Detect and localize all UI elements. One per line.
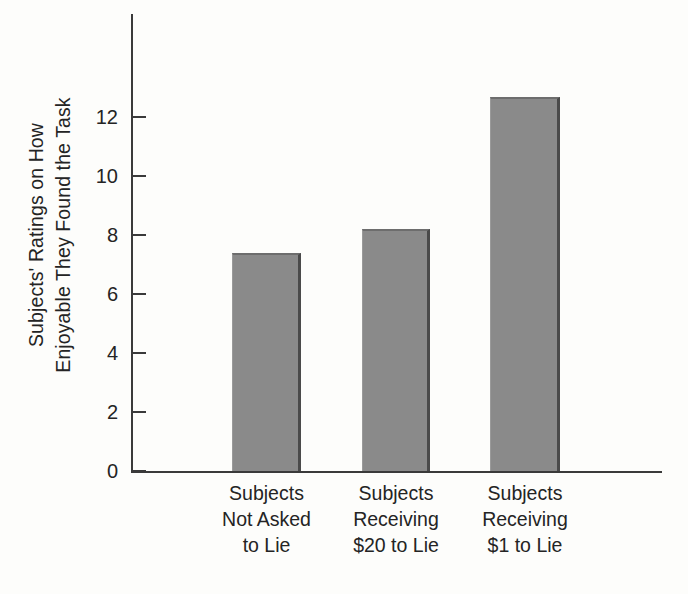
bar-subjects-receiving-20-to-lie[interactable]	[362, 229, 430, 471]
y-tick-label: 2	[107, 402, 118, 422]
y-tick-mark	[133, 234, 146, 236]
y-tick-label: 6	[107, 284, 118, 304]
y-tick-label: 8	[107, 225, 118, 245]
x-axis-label-line: $1 to Lie	[435, 532, 615, 558]
y-tick-mark	[133, 175, 146, 177]
y-axis-title-line-1: Subjects' Ratings on How	[23, 97, 50, 372]
y-tick-label: 10	[96, 166, 118, 186]
y-axis-title-line-2: Enjoyable They Found the Task	[50, 97, 77, 372]
y-tick-label: 4	[107, 343, 118, 363]
y-tick-mark	[133, 293, 146, 295]
y-axis-title-text: Subjects' Ratings on How Enjoyable They …	[23, 97, 77, 372]
y-tick-mark	[133, 352, 146, 354]
plot-area: 0 2 4 6 8 10 12	[131, 14, 662, 473]
bar-subjects-receiving-1-to-lie[interactable]	[490, 97, 560, 471]
y-tick-mark	[133, 116, 146, 118]
bar-subjects-not-asked-to-lie[interactable]	[232, 253, 301, 471]
x-axis-label-line: Subjects	[435, 480, 615, 506]
y-axis-line	[131, 14, 133, 473]
y-tick-label: 12	[96, 107, 118, 127]
x-axis-label-2: Subjects Receiving $1 to Lie	[435, 480, 615, 558]
bar-chart-figure: Subjects' Ratings on How Enjoyable They …	[0, 0, 688, 594]
x-axis-line	[131, 471, 662, 473]
y-tick-mark	[133, 470, 146, 472]
x-axis-label-line: Receiving	[435, 506, 615, 532]
y-axis-title: Subjects' Ratings on How Enjoyable They …	[0, 0, 100, 470]
y-tick-label: 0	[107, 461, 118, 481]
y-tick-mark	[133, 411, 146, 413]
